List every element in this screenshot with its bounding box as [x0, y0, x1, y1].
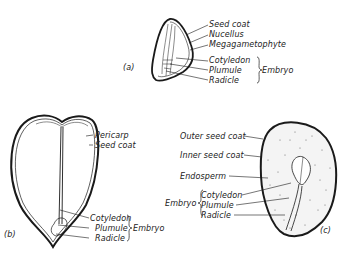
- label-a-cotyledon: Cotyledon: [209, 56, 250, 65]
- seed-diagram: [0, 0, 348, 255]
- label-c-plumule: Plumule: [201, 201, 234, 210]
- label-a-megagametophyte: Megagametophyte: [209, 40, 286, 49]
- caption-c: (c): [320, 226, 331, 235]
- label-a-nucellus: Nucellus: [209, 30, 244, 39]
- label-c-outer-seed-coat: Outer seed coat: [180, 132, 246, 141]
- label-a-embryo: Embryo: [262, 66, 293, 75]
- label-c-inner-seed-coat: Inner seed coat: [180, 151, 244, 160]
- caption-a: (a): [123, 63, 134, 72]
- label-b-plumule: Plumule: [95, 224, 128, 233]
- label-c-embryo: Embryo: [165, 199, 196, 208]
- caption-b: (b): [4, 230, 16, 239]
- label-b-seed-coat: Seed coat: [95, 141, 136, 150]
- label-a-plumule: Plumule: [209, 66, 242, 75]
- label-b-pericarp: Pericarp: [95, 131, 129, 140]
- label-a-seed-coat: Seed coat: [209, 20, 250, 29]
- label-b-embryo: Embryo: [133, 224, 164, 233]
- label-c-cotyledon: Cotyledon: [201, 191, 242, 200]
- label-c-radicle: Radicle: [201, 211, 231, 220]
- label-b-radicle: Radicle: [95, 234, 125, 243]
- label-b-cotyledon: Cotyledon: [90, 214, 131, 223]
- label-c-endosperm: Endosperm: [180, 172, 226, 181]
- label-a-radicle: Radicle: [209, 76, 239, 85]
